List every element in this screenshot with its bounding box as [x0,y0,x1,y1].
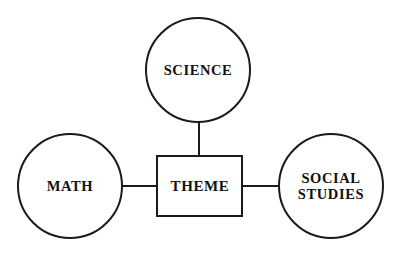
node-circle-math[interactable] [18,134,122,238]
node-circle-social-studies[interactable] [279,134,383,238]
theme-web-diagram: SCIENCE MATH SOCIAL STUDIES THEME [0,0,404,258]
node-rect-theme[interactable] [157,156,242,216]
diagram-svg-layer [0,0,404,258]
node-circle-science[interactable] [146,18,250,122]
